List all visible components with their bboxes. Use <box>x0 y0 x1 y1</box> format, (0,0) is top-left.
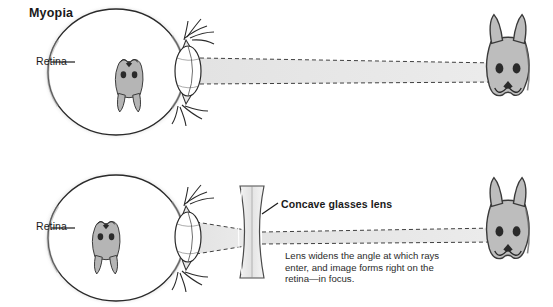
page-title: Myopia <box>29 6 73 20</box>
crystalline-lens-top <box>175 46 201 96</box>
eyelash-upper-top <box>184 19 214 44</box>
myopia-diagram-svg <box>0 0 553 307</box>
eyelash-upper-bottom <box>184 185 214 206</box>
light-ray-band-top <box>200 58 497 84</box>
retina-label-top: Retina <box>36 55 67 67</box>
explanation-caption: Lens widens the angle at which rays ente… <box>285 250 460 285</box>
retina-label-bottom: Retina <box>36 220 67 232</box>
crystalline-lens-bottom <box>175 212 201 262</box>
object-rabbit-bottom <box>487 178 530 259</box>
eyelash-lower-bottom <box>172 271 208 292</box>
diagram-canvas: Myopia Retina Retina Concave glasses len… <box>0 0 553 307</box>
concave-lens-label: Concave glasses lens <box>281 198 392 210</box>
myopia-uncorrected-panel <box>42 4 529 140</box>
object-rabbit-top <box>487 15 530 96</box>
myopia-corrected-panel <box>42 170 497 306</box>
lens-leader-line <box>262 203 278 214</box>
eyelash-lower-top <box>172 105 208 126</box>
